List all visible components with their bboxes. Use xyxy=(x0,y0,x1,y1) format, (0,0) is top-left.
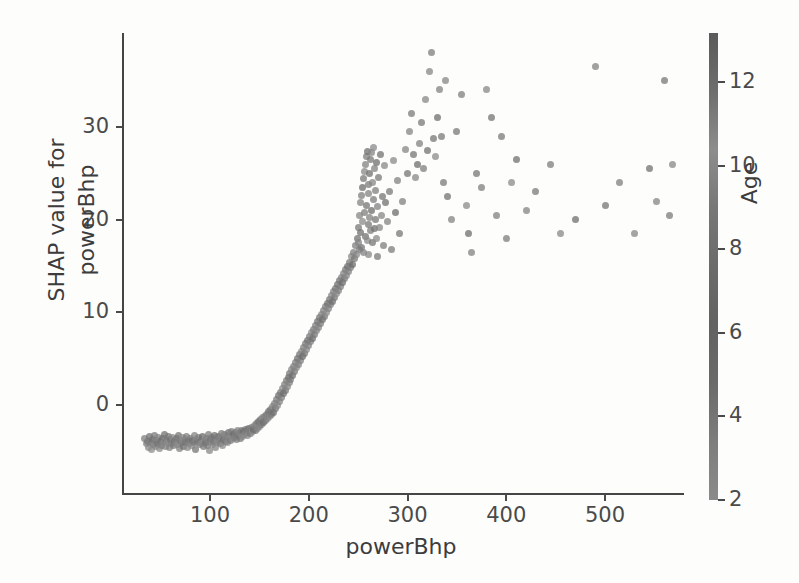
scatter-point xyxy=(376,224,383,231)
scatter-point xyxy=(221,431,228,438)
scatter-point xyxy=(322,303,329,310)
scatter-point xyxy=(361,168,368,175)
scatter-point xyxy=(339,279,346,286)
scatter-point xyxy=(320,307,327,314)
scatter-point xyxy=(367,156,374,163)
scatter-point xyxy=(328,292,335,299)
scatter-point xyxy=(192,446,199,453)
scatter-point xyxy=(372,216,379,223)
scatter-point xyxy=(286,370,293,377)
scatter-point xyxy=(266,413,273,420)
scatter-point xyxy=(227,437,234,444)
x-axis-label: powerBhp xyxy=(122,534,680,559)
scatter-point xyxy=(420,165,427,172)
scatter-point xyxy=(321,313,328,320)
scatter-point xyxy=(345,268,352,275)
scatter-point xyxy=(318,311,325,318)
scatter-point xyxy=(382,199,389,206)
scatter-point xyxy=(165,433,172,440)
scatter-point xyxy=(369,179,376,186)
scatter-point xyxy=(344,263,351,270)
scatter-point xyxy=(150,441,157,448)
scatter-point xyxy=(448,216,455,223)
scatter-point xyxy=(215,433,222,440)
scatter-point xyxy=(153,437,160,444)
scatter-point xyxy=(144,438,151,445)
scatter-point xyxy=(392,209,399,216)
scatter-point xyxy=(390,157,397,164)
scatter-point xyxy=(316,314,323,321)
scatter-point xyxy=(167,436,174,443)
scatter-point xyxy=(170,442,177,449)
scatter-point xyxy=(277,389,284,396)
chart-figure: 0102030 100200300400500 powerBhp SHAP va… xyxy=(0,0,799,583)
scatter-point xyxy=(360,249,367,256)
scatter-point xyxy=(269,403,276,410)
scatter-point xyxy=(193,436,200,443)
x-tick-mark xyxy=(505,494,507,501)
scatter-point xyxy=(262,417,269,424)
scatter-point xyxy=(258,421,265,428)
scatter-point xyxy=(278,394,285,401)
scatter-point xyxy=(418,119,425,126)
scatter-point xyxy=(347,264,354,271)
scatter-point xyxy=(244,432,251,439)
scatter-point xyxy=(273,396,280,403)
scatter-point xyxy=(434,114,441,121)
colorbar-tick-mark xyxy=(718,81,725,83)
scatter-point xyxy=(171,438,178,445)
scatter-point xyxy=(428,49,435,56)
scatter-point xyxy=(557,230,564,237)
scatter-point xyxy=(148,446,155,453)
scatter-point xyxy=(190,439,197,446)
colorbar-tick-mark xyxy=(718,499,725,501)
y-tick-mark xyxy=(116,311,123,313)
scatter-point xyxy=(307,338,314,345)
scatter-point xyxy=(314,318,321,325)
scatter-point xyxy=(465,230,472,237)
scatter-point xyxy=(338,274,345,281)
scatter-point xyxy=(261,413,268,420)
scatter-point xyxy=(285,374,292,381)
scatter-point xyxy=(362,233,369,240)
scatter-point xyxy=(216,435,223,442)
scatter-point xyxy=(602,202,609,209)
scatter-point xyxy=(478,184,485,191)
scatter-point xyxy=(368,149,375,156)
scatter-point xyxy=(205,431,212,438)
scatter-point xyxy=(351,255,358,262)
scatter-point xyxy=(217,440,224,447)
scatter-point xyxy=(310,326,317,333)
scatter-point xyxy=(440,179,447,186)
scatter-point xyxy=(592,63,599,70)
scatter-point xyxy=(373,159,380,166)
scatter-point xyxy=(331,294,338,301)
scatter-point xyxy=(498,133,505,140)
scatter-point xyxy=(358,192,365,199)
scatter-point xyxy=(294,355,301,362)
scatter-point xyxy=(213,437,220,444)
scatter-point xyxy=(408,110,415,117)
scatter-point xyxy=(365,190,372,197)
scatter-point xyxy=(304,337,311,344)
scatter-point xyxy=(289,372,296,379)
scatter-point xyxy=(368,207,375,214)
scatter-point xyxy=(225,429,232,436)
scatter-point xyxy=(169,434,176,441)
scatter-point xyxy=(414,161,421,168)
y-tick-mark xyxy=(116,219,123,221)
scatter-point xyxy=(149,436,156,443)
scatter-point xyxy=(386,188,393,195)
scatter-point xyxy=(161,431,168,438)
scatter-point xyxy=(547,161,554,168)
scatter-point xyxy=(305,342,312,349)
scatter-point xyxy=(410,151,417,158)
scatter-point xyxy=(208,434,215,441)
scatter-point xyxy=(196,441,203,448)
scatter-point xyxy=(159,435,166,442)
scatter-point xyxy=(343,272,350,279)
scatter-point xyxy=(653,198,660,205)
scatter-point xyxy=(379,193,386,200)
scatter-point xyxy=(174,441,181,448)
scatter-point xyxy=(245,425,252,432)
